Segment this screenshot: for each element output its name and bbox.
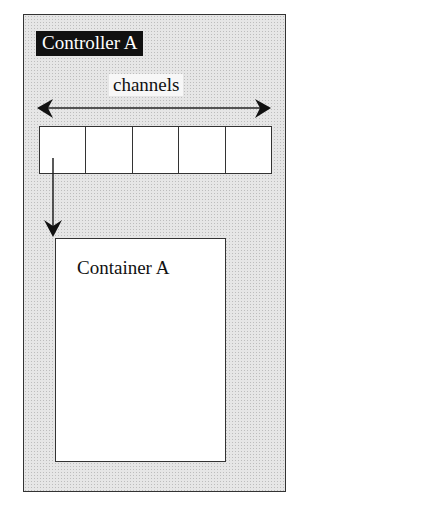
- double-arrow-icon: [37, 99, 271, 118]
- down-arrow-icon: [44, 158, 62, 237]
- arrows: [0, 0, 445, 510]
